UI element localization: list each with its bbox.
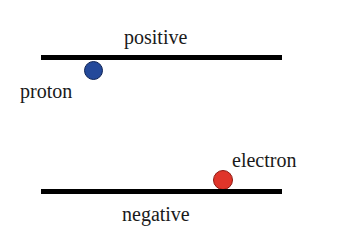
positive-plate-label: positive — [124, 27, 187, 47]
electron-label: electron — [232, 150, 296, 170]
positive-plate — [41, 55, 282, 60]
proton-label: proton — [20, 81, 72, 101]
electron-particle — [213, 170, 233, 190]
negative-plate-label: negative — [122, 204, 190, 224]
negative-plate — [41, 189, 282, 194]
proton-particle — [84, 61, 103, 80]
